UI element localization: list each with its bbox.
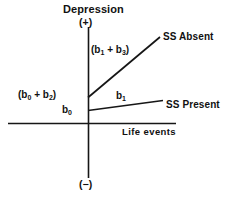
annotation-intercept-ss-present: b0 bbox=[62, 105, 72, 115]
annotation-slope-ss-present: b1 bbox=[116, 91, 126, 101]
annotation-text: (b0 + b2) bbox=[18, 89, 56, 100]
cropped-caption-strip bbox=[0, 191, 226, 197]
annotation-slope-ss-absent: (b1 + b3) bbox=[91, 45, 129, 55]
x-axis-title: Life events bbox=[122, 127, 176, 137]
y-axis-positive-sign: (+) bbox=[79, 17, 92, 28]
ss-present-line bbox=[88, 101, 163, 111]
annotation-intercept-ss-absent: (b0 + b2) bbox=[18, 90, 56, 100]
figure-canvas: Depression (+) (−) (b0 + b2) b0 (b1 + b3… bbox=[0, 0, 226, 197]
y-axis-title: Depression bbox=[63, 4, 124, 15]
annotation-text: b1 bbox=[116, 90, 126, 101]
series-label-ss-absent: SS Absent bbox=[163, 32, 214, 42]
annotation-text: b0 bbox=[62, 104, 72, 115]
y-axis-negative-sign: (−) bbox=[79, 179, 92, 190]
series-label-ss-present: SS Present bbox=[166, 100, 220, 110]
annotation-text: (b1 + b3) bbox=[91, 44, 129, 55]
